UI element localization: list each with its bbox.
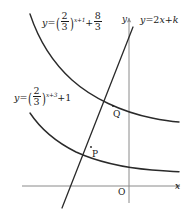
label-curve-lower-exponent: x+3 (46, 92, 57, 98)
label-curve-upper-const-den: 3 (94, 22, 102, 32)
label-curve-lower-equation: y=(23)x+3+1 (14, 86, 71, 107)
math-figure: y=(23)x+1+83 y=(23)x+3+1 y=2x+k y x O P … (0, 0, 189, 213)
label-line-plus: + (165, 14, 173, 25)
label-curve-lower-const: 1 (65, 92, 71, 103)
label-curve-upper-base-den: 3 (61, 22, 69, 32)
paren-open-icon: ( (56, 17, 60, 32)
label-line-equation: y=2x+k (140, 15, 178, 25)
paren-open-icon: ( (28, 92, 32, 107)
label-curve-lower-equals: = (19, 92, 27, 103)
label-curve-upper-exponent: x+1 (74, 17, 85, 23)
label-curve-upper-equation: y=(23)x+1+83 (42, 11, 102, 32)
paren-close-icon: ) (70, 17, 74, 32)
x-axis-label: x (175, 182, 180, 191)
label-curve-upper-equals: = (47, 17, 55, 28)
curve-lower (30, 113, 179, 172)
label-curve-upper-base: 23 (61, 11, 69, 32)
label-curve-upper-const: 83 (94, 11, 102, 32)
label-curve-lower-base-den: 3 (33, 97, 41, 107)
line-y-equals-2x-plus-k (62, 27, 133, 208)
y-axis-label: y (122, 15, 127, 24)
point-q-label: Q (113, 110, 120, 119)
point-q-marker (112, 105, 114, 107)
origin-label: O (118, 188, 125, 197)
paren-close-icon: ) (42, 92, 46, 107)
point-p-marker (90, 146, 92, 148)
label-line-intercept: k (173, 14, 179, 25)
label-curve-upper-plus: + (85, 17, 93, 28)
point-p-label: P (92, 150, 98, 159)
label-curve-lower-base: 23 (33, 86, 41, 107)
